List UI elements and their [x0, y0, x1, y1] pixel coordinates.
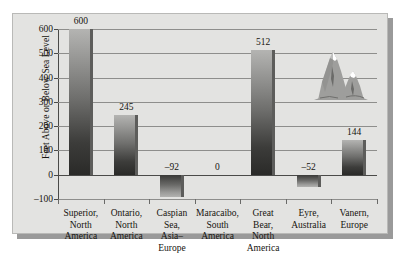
gridline [58, 199, 377, 200]
bar-slot: 0 [195, 29, 241, 199]
bar-value-label: –92 [165, 162, 179, 172]
y-tick-label: 200 [39, 121, 53, 131]
mountains-graphic [306, 48, 372, 104]
y-tick-label: 300 [39, 97, 53, 107]
x-category-label-line: Europe [139, 243, 205, 255]
x-tick-mark [286, 199, 287, 204]
bar-slot: 600 [58, 29, 104, 199]
bar [297, 175, 321, 188]
bar-value-label: 600 [74, 16, 88, 26]
x-category-label-line: Vanern, [321, 208, 387, 220]
bar [160, 175, 184, 197]
bar [251, 50, 275, 174]
x-tick-mark [104, 199, 105, 204]
x-category-label-line: America [230, 243, 296, 255]
bar-value-label: –52 [302, 162, 316, 172]
chart-panel: Feet Above or Below Sea Level 6005004003… [12, 13, 388, 234]
x-category-label-line: North [230, 231, 296, 243]
y-tick-label: 600 [39, 24, 53, 34]
x-tick-mark [58, 199, 59, 204]
x-category-label-line: Europe [321, 220, 387, 232]
bar-value-label: 144 [347, 127, 361, 137]
x-tick-mark [377, 199, 378, 204]
y-tick-label: –100 [34, 194, 53, 204]
y-tick-label: 500 [39, 48, 53, 58]
bar-slot: –92 [149, 29, 195, 199]
bar-value-label: 245 [119, 102, 133, 112]
bar [342, 140, 366, 175]
y-tick-label: 400 [39, 73, 53, 83]
x-tick-mark [240, 199, 241, 204]
plot-area: 6005004003002001000–100 600245–920512–52… [58, 29, 377, 199]
bar-slot: 512 [240, 29, 286, 199]
x-tick-mark [149, 199, 150, 204]
bar-value-label: 0 [215, 162, 220, 172]
x-tick-mark [331, 199, 332, 204]
bar-value-label: 512 [256, 37, 270, 47]
bar [69, 29, 93, 175]
bar [114, 115, 138, 175]
x-category-label: Vanern,Europe [321, 208, 387, 231]
x-tick-mark [195, 199, 196, 204]
y-tick-label: 100 [39, 145, 53, 155]
chart-figure: Feet Above or Below Sea Level 6005004003… [0, 0, 405, 267]
y-tick-label: 0 [48, 170, 53, 180]
bar-slot: 245 [104, 29, 150, 199]
